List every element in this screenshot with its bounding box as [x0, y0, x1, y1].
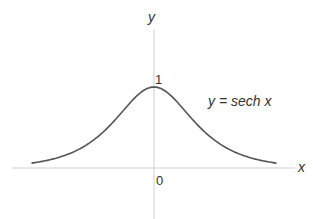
x-axis-label: x [297, 159, 306, 175]
y-one-label: 1 [155, 72, 162, 87]
y-axis-label: y [147, 9, 156, 25]
origin-label: 0 [156, 173, 163, 188]
curve-annotation: y = sech x [207, 93, 272, 109]
sech-plot: x y 0 1 y = sech x [0, 0, 313, 219]
